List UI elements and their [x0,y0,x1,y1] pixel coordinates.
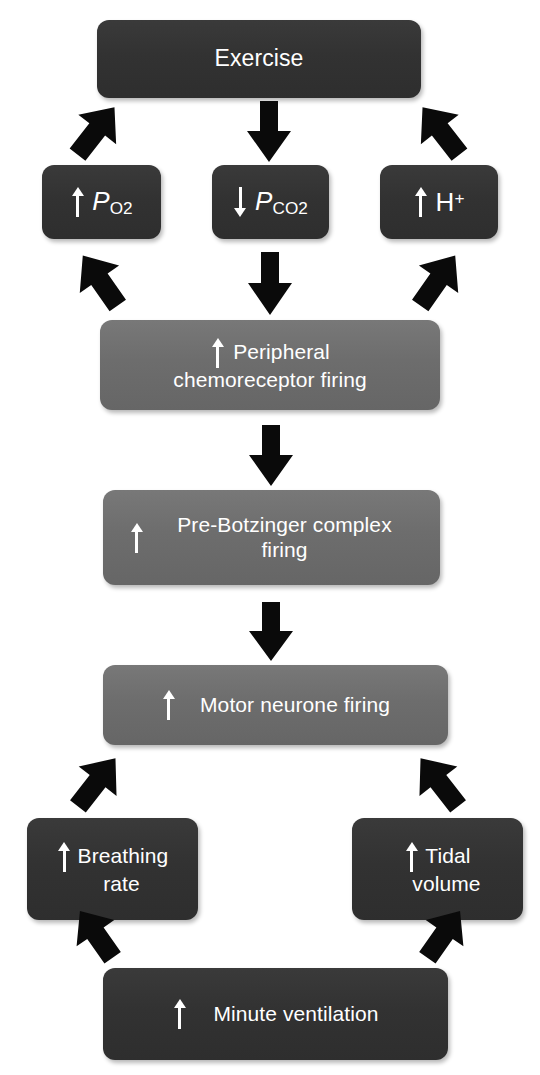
up-arrow-icon [210,338,225,368]
node-peripheral-chemoreceptor-text: Peripheral chemoreceptor firing [173,338,366,393]
node-pco2-content: PCO2 [233,186,308,218]
up-arrow-icon [413,187,428,217]
node-breathing-rate-text: Breathing rate [57,842,169,897]
connector-prebotzinger-to-motor [248,602,294,662]
node-peripheral-chemoreceptor[interactable]: Peripheral chemoreceptor firing [100,320,440,410]
connector-exercise-to-hplus [407,99,475,163]
up-arrow-icon [70,187,85,217]
node-minute-ventilation[interactable]: Minute ventilation [103,968,448,1060]
node-minute-ventilation-content: Minute ventilation [172,999,378,1029]
node-peripheral-chemoreceptor-line2: chemoreceptor firing [173,368,366,393]
connector-tidal-volume-to-minute [412,902,476,966]
node-hplus[interactable]: H+ [380,165,498,239]
node-hplus-content: H+ [413,187,464,218]
connector-chemoreceptor-to-prebotzinger [248,425,294,487]
node-pre-botzinger-line1: Pre-Botzinger complex [177,513,392,538]
node-po2-label: PO2 [92,186,133,218]
node-pre-botzinger[interactable]: Pre-Botzinger complex firing [103,490,440,585]
connector-po2-to-chemoreceptor [66,246,134,314]
connector-pco2-to-chemoreceptor [247,252,293,316]
node-minute-ventilation-label: Minute ventilation [213,1002,378,1027]
node-po2-content: PO2 [70,186,133,218]
node-pco2-subscript: CO2 [272,198,308,218]
node-peripheral-chemoreceptor-line1: Peripheral [173,338,366,368]
up-arrow-icon [57,842,72,872]
up-arrow-icon [404,842,419,872]
node-tidal-volume-line2: volume [394,872,480,897]
flowchart-canvas: Exercise PO2 [0,0,540,1075]
node-po2-subscript: O2 [110,198,133,218]
connector-motor-to-tidal-volume [405,748,473,816]
node-hplus-superscript: + [454,187,464,207]
connector-exercise-to-po2 [62,99,130,163]
down-arrow-icon [233,187,248,217]
node-pco2[interactable]: PCO2 [212,165,329,239]
node-breathing-rate-line2: rate [57,872,169,897]
node-exercise-label: Exercise [211,45,308,72]
node-exercise[interactable]: Exercise [97,20,421,98]
node-pre-botzinger-line2: firing [177,538,392,563]
up-arrow-icon [161,690,176,720]
node-motor-neurone[interactable]: Motor neurone firing [103,665,448,745]
node-tidal-volume-text: Tidal volume [394,842,480,897]
node-pco2-label: PCO2 [255,186,308,218]
node-tidal-volume-line1: Tidal [394,842,480,872]
node-motor-neurone-label: Motor neurone firing [200,693,390,718]
connector-hplus-to-chemoreceptor [404,246,472,314]
connector-motor-to-breathing-rate [63,748,131,816]
connector-breathing-rate-to-minute [64,902,128,966]
node-breathing-rate-line1: Breathing [57,842,169,872]
up-arrow-icon [129,523,144,553]
node-po2[interactable]: PO2 [42,165,161,239]
node-pre-botzinger-text: Pre-Botzinger complex firing [151,513,392,563]
connector-exercise-to-pco2 [246,101,292,163]
up-arrow-icon [172,999,187,1029]
node-motor-neurone-content: Motor neurone firing [161,690,390,720]
node-hplus-label: H+ [435,187,464,218]
